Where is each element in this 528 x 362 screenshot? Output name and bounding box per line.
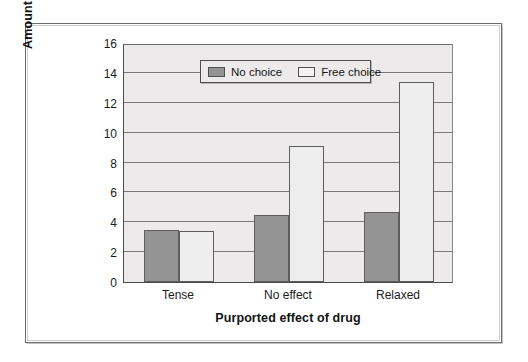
legend-swatch-light <box>298 67 315 77</box>
y-axis-title: Amount of attitude change <box>18 0 38 88</box>
x-axis-title: Purported effect of drug <box>123 311 453 325</box>
y-tick-label: 10 <box>104 127 117 141</box>
y-axis-title-container: Amount of attitude change <box>64 44 84 283</box>
legend-label: No choice <box>231 66 282 78</box>
legend-entry: Free choice <box>298 66 381 78</box>
legend-label: Free choice <box>321 66 381 78</box>
bar <box>144 230 179 282</box>
bar <box>364 212 399 282</box>
y-tick-label: 6 <box>110 186 117 200</box>
y-tick-label: 14 <box>104 67 117 81</box>
y-tick-label: 8 <box>110 157 117 171</box>
x-tick-label: No effect <box>264 288 312 302</box>
y-tick-label: 16 <box>104 37 117 51</box>
y-tick-label: 0 <box>110 276 117 290</box>
bar <box>179 231 214 282</box>
legend-swatch-dark <box>208 67 225 77</box>
chart-legend: No choiceFree choice <box>200 60 371 83</box>
y-tick-label: 12 <box>104 97 117 111</box>
bar <box>289 146 324 282</box>
bar <box>399 82 434 282</box>
y-tick-label: 4 <box>110 216 117 230</box>
legend-entry: No choice <box>208 66 282 78</box>
x-tick-label: Relaxed <box>376 288 420 302</box>
y-axis-ticks: 0246810121416 <box>86 44 117 283</box>
chart-figure: Amount of attitude change 0246810121416 … <box>0 0 528 362</box>
bar <box>254 215 289 282</box>
x-tick-label: Tense <box>162 288 194 302</box>
y-tick-label: 2 <box>110 246 117 260</box>
